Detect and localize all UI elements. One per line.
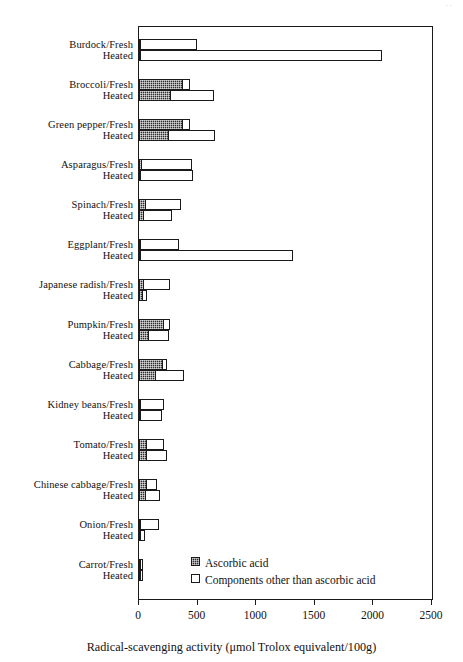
x-axis-tick-label-1000: 1000 [244,608,267,622]
bar-segment-other-components [140,250,293,261]
bar-kidney-beans-heated [139,410,162,421]
chart-legend: Ascorbic acid Components other than asco… [191,557,376,591]
y-axis-label-broccoli-fresh: Broccoli/Fresh [69,79,133,90]
legend-label-ascorbic-acid: Ascorbic acid [205,557,269,570]
bar-carrot-heated [139,570,143,581]
y-axis-label-pumpkin-fresh: Pumpkin/Fresh [68,319,133,330]
bar-cabbage-heated [139,370,184,381]
bars-layer [139,27,432,599]
x-axis-tick-label-1500: 1500 [302,608,325,622]
bar-cabbage-fresh [139,359,167,370]
bar-pumpkin-fresh [139,319,170,330]
bar-segment-ascorbic-acid [139,79,183,90]
x-axis-title: Radical-scavenging activity (μmol Trolox… [0,640,463,655]
legend-swatch-other-components-icon [191,574,200,583]
legend-item-other-components: Components other than ascorbic acid [191,574,376,591]
bar-segment-ascorbic-acid [139,370,156,381]
bar-segment-other-components [146,479,157,490]
bar-eggplant-fresh [139,239,179,250]
bar-segment-other-components [140,559,143,570]
bar-pumpkin-heated [139,330,169,341]
y-axis-label-chinese-cabbage-heated: Heated [103,490,133,501]
y-axis-label-spinach-fresh: Spinach/Fresh [72,199,133,210]
y-axis-label-tomato-heated: Heated [103,450,133,461]
y-axis-label-kidney-beans-heated: Heated [103,410,133,421]
y-axis-label-spinach-heated: Heated [103,210,133,221]
bar-segment-other-components [140,399,164,410]
x-axis-tick-2000 [372,600,373,605]
y-axis-label-japanese-radish-fresh: Japanese radish/Fresh [39,279,133,290]
y-axis-label-chinese-cabbage-fresh: Chinese cabbage/Fresh [34,479,133,490]
x-axis-tick-label-2500: 2500 [420,608,443,622]
x-axis-tick-label-0: 0 [135,608,141,622]
y-axis-label-green-pepper-fresh: Green pepper/Fresh [48,119,133,130]
bar-eggplant-heated [139,250,293,261]
bar-segment-other-components [162,359,167,370]
bar-spinach-heated [139,210,172,221]
bar-onion-fresh [139,519,159,530]
bar-segment-other-components [140,50,382,61]
legend-label-other-components: Components other than ascorbic acid [205,574,376,587]
y-axis-category-labels: Burdock/FreshHeatedBroccoli/FreshHeatedG… [0,27,133,599]
bar-segment-other-components [145,490,160,501]
bar-segment-other-components [140,239,179,250]
bar-segment-other-components [182,119,190,130]
bar-segment-other-components [170,90,214,101]
bar-chart: ·· Burdock/FreshHeatedBroccoli/FreshHeat… [0,0,463,662]
y-axis-label-pumpkin-heated: Heated [103,330,133,341]
bar-chinese-cabbage-heated [139,490,160,501]
y-axis-label-green-pepper-heated: Heated [103,130,133,141]
bar-green-pepper-heated [139,130,215,141]
y-axis-label-burdock-fresh: Burdock/Fresh [69,39,133,50]
bar-japanese-radish-fresh [139,279,170,290]
page-scan-artifact: ·· [446,1,453,10]
bar-onion-heated [139,530,145,541]
bar-green-pepper-fresh [139,119,190,130]
bar-segment-other-components [140,170,193,181]
bar-segment-other-components [163,319,169,330]
x-axis-tick-2500 [431,600,432,605]
bar-segment-other-components [146,450,167,461]
bar-japanese-radish-heated [139,290,147,301]
bar-segment-other-components [143,279,169,290]
x-axis-tick-1000 [255,600,256,605]
bar-broccoli-heated [139,90,214,101]
bar-asparagus-fresh [139,159,192,170]
bar-segment-other-components [146,439,164,450]
bar-segment-ascorbic-acid [139,90,171,101]
y-axis-label-onion-heated: Heated [103,530,133,541]
bar-tomato-heated [139,450,167,461]
bar-segment-other-components [140,519,159,530]
bar-segment-other-components [143,210,172,221]
bar-segment-other-components [148,330,169,341]
bar-broccoli-fresh [139,79,190,90]
bar-segment-ascorbic-acid [139,130,169,141]
bar-segment-other-components [155,370,184,381]
bar-segment-other-components [140,570,143,581]
y-axis-label-kidney-beans-fresh: Kidney beans/Fresh [48,399,134,410]
bar-segment-other-components [141,159,192,170]
x-axis-tick-500 [197,600,198,605]
bar-carrot-fresh [139,559,143,570]
y-axis-label-carrot-fresh: Carrot/Fresh [79,559,133,570]
bar-burdock-heated [139,50,382,61]
x-axis-tick-1500 [314,600,315,605]
bar-segment-other-components [140,39,197,50]
y-axis-label-tomato-fresh: Tomato/Fresh [74,439,133,450]
x-axis-tick-label-2000: 2000 [361,608,384,622]
y-axis-label-onion-fresh: Onion/Fresh [79,519,133,530]
legend-item-ascorbic-acid: Ascorbic acid [191,557,376,574]
bar-tomato-fresh [139,439,164,450]
y-axis-label-asparagus-fresh: Asparagus/Fresh [61,159,133,170]
bar-segment-ascorbic-acid [139,359,163,370]
x-axis-tick-label-500: 500 [188,608,205,622]
bar-segment-other-components [145,199,181,210]
bar-segment-other-components [142,290,147,301]
y-axis-label-burdock-heated: Heated [103,50,133,61]
y-axis-label-cabbage-fresh: Cabbage/Fresh [69,359,133,370]
y-axis-label-carrot-heated: Heated [103,570,133,581]
bar-kidney-beans-fresh [139,399,164,410]
bar-segment-other-components [140,410,162,421]
bar-spinach-fresh [139,199,181,210]
bar-segment-other-components [182,79,190,90]
